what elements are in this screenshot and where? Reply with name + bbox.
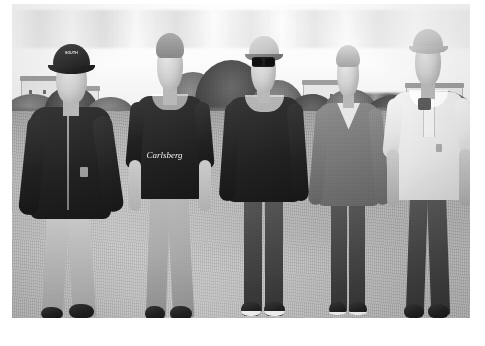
person-5-forearm-right (459, 149, 470, 206)
person-2-shoe-left (145, 306, 165, 318)
person-3-leg-right (265, 190, 283, 312)
person-1-shoe-right (69, 304, 93, 318)
person-3-shoe-right (264, 302, 285, 317)
person-5 (383, 17, 470, 318)
group-photograph: SOUTH Carlsberg (12, 4, 470, 318)
person-4-leg-left (331, 194, 347, 312)
person-5-forearm-left (387, 149, 399, 206)
person-4 (307, 23, 389, 318)
person-5-leg-left (405, 188, 428, 315)
person-5-cap (413, 29, 443, 50)
person-3-cap-logo (254, 42, 274, 47)
person-1-cap: SOUTH (53, 44, 90, 70)
person-2: Carlsberg (122, 13, 218, 318)
person-3-leg-left (244, 190, 262, 312)
person-2-forearm-left (129, 160, 142, 212)
person-1-cap-logo: SOUTH (59, 50, 84, 56)
person-5-chest-logo (436, 144, 442, 152)
person-3-cap (249, 36, 278, 58)
person-3 (218, 20, 310, 318)
person-1-shoe-left (41, 307, 63, 318)
person-3-shoe-left (241, 302, 261, 317)
person-4-leg-right (349, 194, 365, 312)
person-4-shoe-left (329, 302, 346, 315)
person-5-cap-logo (418, 34, 439, 39)
person-2-shoe-right (170, 306, 192, 318)
person-1: SOUTH (17, 17, 127, 318)
person-5-leg-right (427, 188, 451, 315)
person-5-shoe-left (404, 304, 424, 318)
person-1-jacket-crest (80, 167, 87, 177)
person-2-shirt-logo: Carlsberg (146, 150, 182, 160)
person-2-leg-right (167, 190, 195, 318)
person-4-hair (336, 45, 360, 67)
screenshot-root: SOUTH Carlsberg (0, 0, 485, 346)
person-5-spectacles (418, 98, 431, 110)
person-2-leg-left (146, 190, 171, 318)
person-4-shoe-right (349, 302, 367, 315)
person-2-hair (156, 33, 185, 57)
person-2-tshirt: Carlsberg (137, 96, 202, 200)
person-5-shoe-right (428, 304, 449, 318)
person-3-sunglasses (252, 57, 275, 67)
person-2-forearm-right (199, 160, 212, 212)
